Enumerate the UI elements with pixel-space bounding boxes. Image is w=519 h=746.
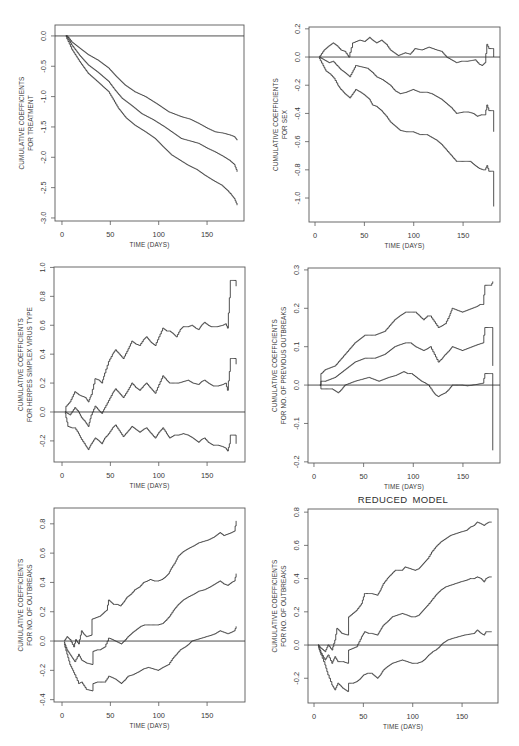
y-tick-label: 0.4	[292, 573, 301, 583]
x-tick-label: 0	[313, 231, 317, 240]
y-tick-label: -0.4	[293, 107, 302, 120]
y-tick-label: 0.2	[38, 378, 47, 388]
x-tick-label: 50	[106, 711, 114, 720]
y-tick-label: -0.1	[292, 417, 301, 430]
x-axis-label: TIME (DAYS)	[385, 242, 425, 250]
y-tick-label: -0.2	[38, 664, 47, 677]
x-tick-label: 100	[153, 711, 165, 720]
x-axis-label: TIME (DAYS)	[130, 241, 170, 249]
x-tick-label: 150	[457, 472, 469, 481]
x-tick-label: 100	[408, 231, 420, 240]
y-axis-label-line: CUMULATIVE COEFFICIENTS	[17, 318, 24, 411]
figure-background	[0, 0, 519, 746]
y-tick-label: 0.2	[292, 303, 301, 313]
x-tick-label: 0	[312, 472, 316, 481]
x-tick-label: 100	[407, 472, 419, 481]
y-tick-label: 0.0	[292, 380, 301, 390]
x-axis-label: TIME (DAYS)	[383, 723, 423, 731]
x-tick-label: 150	[457, 231, 469, 240]
x-tick-label: 150	[456, 712, 468, 721]
y-tick-label: 0.6	[292, 540, 301, 550]
x-tick-label: 0	[60, 471, 64, 480]
y-axis-label-line: CUMULATIVE COEFFICIENTS	[271, 560, 278, 653]
x-tick-label: 100	[407, 712, 419, 721]
y-tick-label: 0.6	[38, 320, 47, 330]
y-axis-label-line: CUMULATIVE COEFFICIENTS	[271, 319, 278, 412]
y-tick-label: 0.6	[38, 548, 47, 558]
y-tick-label: -0.2	[293, 79, 302, 92]
y-tick-label: 0.0	[293, 52, 302, 62]
x-tick-label: 150	[201, 711, 213, 720]
x-axis-label: TIME (DAYS)	[130, 482, 170, 490]
x-tick-label: 50	[359, 712, 367, 721]
y-tick-label: -2.0	[39, 151, 48, 164]
y-tick-label: 0.0	[292, 640, 301, 650]
y-tick-label: 0.2	[38, 607, 47, 617]
y-tick-label: 1.0	[38, 262, 47, 272]
y-tick-label: 0.8	[38, 291, 47, 301]
y-tick-label: -0.6	[293, 135, 302, 148]
x-tick-label: 50	[106, 471, 114, 480]
y-tick-label: -0.2	[292, 455, 301, 468]
y-tick-label: -0.2	[292, 672, 301, 685]
y-tick-label: -2.5	[39, 181, 48, 194]
y-tick-label: -0.8	[293, 163, 302, 176]
x-tick-label: 50	[360, 472, 368, 481]
y-axis-label-line: FOR NO. OF PREVIOUS OUTBREAKS	[280, 307, 287, 425]
y-axis-label-line: FOR NO. OF OUTBREAKS	[26, 564, 33, 645]
x-tick-label: 0	[60, 230, 64, 239]
x-tick-label: 100	[153, 471, 165, 480]
figure: 0501001500.0-0.5-1.0-1.5-2.0-2.5-3.0TIME…	[0, 0, 519, 746]
x-tick-label: 50	[106, 230, 114, 239]
y-axis-label-line: CUMULATIVE COEFFICIENTS	[272, 78, 279, 171]
y-tick-label: 0.4	[38, 349, 47, 359]
y-axis-label-line: FOR HERPES SIMPLEX VIRUS TYPE	[26, 307, 33, 422]
y-axis-label-line: FOR NO. OF OUTBREAKS	[280, 565, 287, 646]
y-tick-label: 0.8	[292, 507, 301, 517]
y-tick-label: 0.4	[38, 577, 47, 587]
y-tick-label: -1.0	[293, 192, 302, 205]
panel-title: REDUCED MODEL	[358, 494, 449, 505]
y-tick-label: 0.8	[38, 519, 47, 529]
y-tick-label: -0.4	[38, 693, 47, 706]
y-axis-label-line: FOR SEX	[281, 109, 288, 139]
y-tick-label: 0.2	[292, 607, 301, 617]
y-tick-label: 0.0	[39, 31, 48, 41]
x-tick-label: 150	[201, 230, 213, 239]
x-axis-label: TIME (DAYS)	[384, 483, 424, 491]
y-axis-label-line: CUMULATIVE COEFFICIENTS	[17, 559, 24, 652]
y-tick-label: 0.0	[38, 407, 47, 417]
y-tick-label: -1.5	[39, 121, 48, 134]
y-tick-label: 0.2	[293, 24, 302, 34]
y-axis-label-line: CUMULATIVE COEFFICIENTS	[18, 77, 25, 170]
y-tick-label: 0.1	[292, 342, 301, 352]
y-axis-label-line: FOR TREATMENT	[27, 95, 34, 151]
x-tick-label: 50	[360, 231, 368, 240]
y-tick-label: -3.0	[39, 212, 48, 225]
x-tick-label: 150	[201, 471, 213, 480]
y-tick-label: -0.2	[38, 435, 47, 448]
y-tick-label: 0.0	[38, 636, 47, 646]
x-tick-label: 0	[60, 711, 64, 720]
y-tick-label: 0.3	[292, 265, 301, 275]
x-axis-label: TIME (DAYS)	[130, 722, 170, 730]
y-tick-label: -0.5	[39, 60, 48, 73]
x-tick-label: 100	[153, 230, 165, 239]
x-tick-label: 0	[312, 712, 316, 721]
y-tick-label: -1.0	[39, 90, 48, 103]
